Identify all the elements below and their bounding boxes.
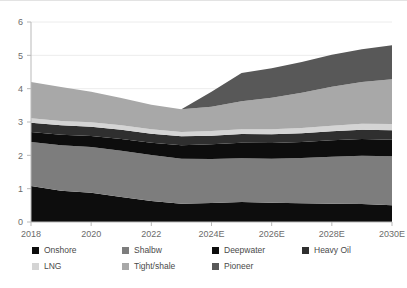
x-axis: 2018202020222024E2026E2028E2030E (21, 222, 405, 239)
chart-plot-svg: 0123456 2018202020222024E2026E2028E2030E (0, 0, 407, 240)
legend-label: Pioneer (224, 261, 253, 271)
x-tick-label: 2018 (21, 229, 41, 239)
legend-item-lng[interactable]: LNG (32, 261, 122, 271)
x-tick-label: 2024E (198, 229, 224, 239)
x-tick-label: 2030E (379, 229, 405, 239)
legend-swatch-icon (32, 247, 39, 254)
legend-item-onshore[interactable]: Onshore (32, 245, 122, 255)
legend-label: LNG (44, 261, 61, 271)
y-tick-label: 2 (18, 151, 23, 161)
y-tick-label: 6 (18, 17, 23, 27)
stacked-area-chart: 0123456 2018202020222024E2026E2028E2030E (0, 0, 407, 240)
legend-item-shalbw[interactable]: Shalbw (122, 245, 212, 255)
y-tick-label: 0 (18, 217, 23, 227)
legend-swatch-icon (122, 247, 129, 254)
y-tick-label: 5 (18, 51, 23, 61)
page-bottom-artifact (0, 276, 407, 288)
legend-label: Heavy Oil (314, 245, 351, 255)
legend-item-deepwater[interactable]: Deepwater (212, 245, 302, 255)
y-tick-label: 4 (18, 84, 23, 94)
legend-swatch-icon (122, 263, 129, 270)
area-series-group (31, 45, 392, 222)
x-tick-label: 2022 (141, 229, 161, 239)
legend-swatch-icon (302, 247, 309, 254)
y-tick-label: 1 (18, 184, 23, 194)
legend-label: Onshore (44, 245, 77, 255)
legend-item-tight-shale[interactable]: Tight/shale (122, 261, 212, 271)
x-tick-label: 2020 (81, 229, 101, 239)
legend-swatch-icon (212, 263, 219, 270)
legend-row-primary: OnshoreShalbwDeepwaterHeavy Oil (6, 242, 401, 258)
x-tick-label: 2028E (319, 229, 345, 239)
legend-item-heavy-oil[interactable]: Heavy Oil (302, 245, 392, 255)
legend-swatch-icon (212, 247, 219, 254)
y-axis: 0123456 (18, 17, 31, 227)
legend-item-pioneer[interactable]: Pioneer (212, 261, 302, 271)
legend-swatch-icon (32, 263, 39, 270)
y-tick-label: 3 (18, 117, 23, 127)
legend-label: Shalbw (134, 245, 162, 255)
legend-label: Deepwater (224, 245, 265, 255)
legend-row-secondary: LNGTight/shalePioneer (6, 258, 401, 274)
legend-label: Tight/shale (134, 261, 175, 271)
x-tick-label: 2026E (259, 229, 285, 239)
